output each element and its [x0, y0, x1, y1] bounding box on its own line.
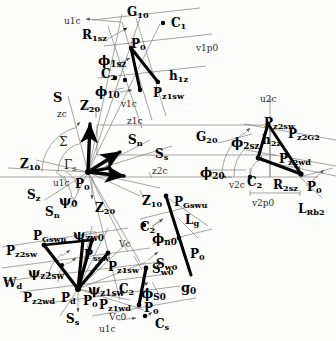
label-phiS0-subscript: S0	[153, 292, 166, 302]
label-psiz2sw-subscript: z2sw	[40, 271, 64, 281]
label-C2_rt-text: C	[247, 175, 257, 189]
label-u1c_c: u1c	[53, 179, 70, 188]
label-P0_ctr-text: P	[75, 177, 84, 191]
label-u1c_bl: u1c	[99, 325, 116, 334]
label-Sn_1-text: S	[128, 133, 137, 147]
label-v1p0-text: v1p0	[196, 43, 218, 53]
label-psiz2sw: ψz2sw	[28, 266, 64, 279]
label-PGswn: PGswn	[33, 230, 67, 242]
label-phi2sz-text: ϕ	[231, 135, 243, 150]
label-G20-subscript: 20	[206, 135, 217, 145]
label-g0: g0	[181, 281, 196, 294]
label-Sn_1: Sn	[128, 134, 143, 146]
label-Z20_up: Z20	[80, 100, 100, 112]
label-phi1sz: ϕ1sz	[98, 54, 126, 67]
label-Pz1sw_b-text: P	[108, 260, 117, 274]
label-Pz2wd: Pz2wd	[23, 292, 55, 304]
label-R1sz-subscript: 1sz	[92, 33, 107, 43]
label-PGswn-text: P	[33, 229, 42, 243]
label-R1sz: R1sz	[82, 29, 107, 41]
label-phi1sz-text: ϕ	[98, 53, 110, 68]
label-G10-text: G	[127, 5, 137, 19]
label-C2_bl: C2	[119, 283, 134, 295]
label-P0_brc-subscript: 0	[199, 252, 205, 262]
label-P0_ctr: P0	[75, 178, 90, 190]
label-G20-text: G	[196, 130, 206, 144]
label-G10-subscript: 10	[137, 10, 148, 20]
label-P0_rt-subscript: 0	[316, 185, 322, 195]
label-vc-text: Vc	[119, 239, 131, 249]
label-Z20_up-subscript: 20	[89, 104, 100, 114]
label-C2_top: C2	[101, 68, 116, 80]
label-Pd-subscript: d	[70, 296, 76, 306]
label-h1z-subscript: 1z	[178, 74, 188, 84]
label-Pz2wd-subscript: z2wd	[288, 157, 311, 167]
label-Ss_bl-text: S	[66, 312, 75, 326]
label-P0_bl2-text: P	[144, 301, 153, 315]
label-h1z: h1z	[169, 70, 188, 82]
label-Pz1sw_b: Pz1sw	[108, 261, 139, 273]
label-P0_top-subscript: 0	[140, 42, 146, 52]
label-Sz-subscript: z	[36, 193, 41, 203]
label-Pssw-text: P	[84, 248, 93, 262]
label-Ss_1-subscript: s	[164, 152, 169, 162]
label-psizw0-subscript: zw0	[85, 233, 104, 243]
label-v2p0: v2p0	[252, 199, 274, 208]
label-zc: zc	[57, 110, 67, 119]
label-Pz1wd: Pz1wd	[99, 299, 131, 311]
label-zc-text: zc	[57, 109, 67, 119]
label-Pz2wd-text: P	[23, 291, 32, 305]
label-C2_top-text: C	[101, 67, 111, 81]
label-S_s_upper-text: S	[53, 90, 62, 105]
label-phin0-text: ϕ	[152, 231, 164, 246]
label-Ss_bl-subscript: s	[75, 317, 80, 327]
label-z2c-text: z2c	[152, 166, 168, 176]
label-C1-subscript: 1	[181, 21, 187, 31]
label-Sn_1-subscript: n	[137, 138, 143, 148]
label-Pz1sw: Pz1sw	[153, 87, 184, 99]
label-Lg: Lg	[185, 214, 199, 226]
label-Cs-subscript: s	[165, 322, 170, 332]
label-C2_bl-text: C	[119, 282, 129, 296]
label-GammaS: Γs	[64, 159, 77, 171]
label-Wd-subscript: d	[16, 281, 22, 291]
label-LRb2-subscript: Rb2	[306, 207, 324, 217]
label-vc0-text: Vc0	[109, 312, 126, 322]
label-Sw0_b-subscript: w0	[161, 267, 174, 277]
vector-diagram-figure: u1cG10C1R1szP0v1p0ϕ1szC2h1zϕ10Pz1swv1cz1…	[0, 0, 336, 341]
label-Z10b: Z10	[142, 195, 162, 207]
label-P0_brc: P0	[190, 248, 205, 260]
label-psi0-subscript: 0	[71, 199, 77, 209]
label-u1c_bl-text: u1c	[99, 324, 116, 334]
label-Sz: Sz	[27, 189, 40, 201]
label-Cs-text: C	[155, 317, 165, 331]
label-R2sz-subscript: 2sz	[283, 183, 298, 193]
label-P0_ctr-subscript: 0	[84, 182, 90, 192]
label-g0-subscript: 0	[190, 286, 196, 296]
label-Z10b-text: Z	[142, 194, 151, 208]
label-phi2sz: ϕ2sz	[231, 136, 259, 149]
label-v1p0: v1p0	[196, 44, 218, 53]
label-C1-text: C	[171, 16, 181, 30]
label-Z10-subscript: 10	[29, 162, 40, 172]
label-u1c_c-text: u1c	[53, 178, 70, 188]
label-Pz1wd-text: P	[99, 298, 108, 312]
label-P0_bl2-subscript: 0	[153, 306, 159, 316]
label-Sigma-text: Σ	[59, 135, 67, 149]
label-Sigma: Σ	[59, 136, 67, 148]
label-psiz2sw-text: ψ	[28, 265, 40, 280]
label-u1c: u1c	[64, 17, 81, 26]
label-P0_brc-text: P	[190, 247, 199, 261]
label-h1z-text: h	[169, 69, 178, 83]
label-Pz2G2: Pz2G2	[288, 128, 320, 140]
label-Z20_dn-subscript: 20	[104, 206, 115, 216]
label-Ss_1-text: S	[155, 147, 164, 161]
label-Lg-subscript: g	[193, 218, 199, 228]
label-z1c: z1c	[127, 117, 143, 126]
label-Ss_bl: Ss	[66, 313, 79, 325]
label-Z10b-subscript: 10	[151, 199, 162, 209]
label-G20: G20	[196, 131, 218, 143]
label-Sw0_b: Sw0	[152, 263, 173, 275]
label-P0_top-text: P	[131, 37, 140, 51]
label-phiS0-text: ϕ	[141, 286, 153, 301]
